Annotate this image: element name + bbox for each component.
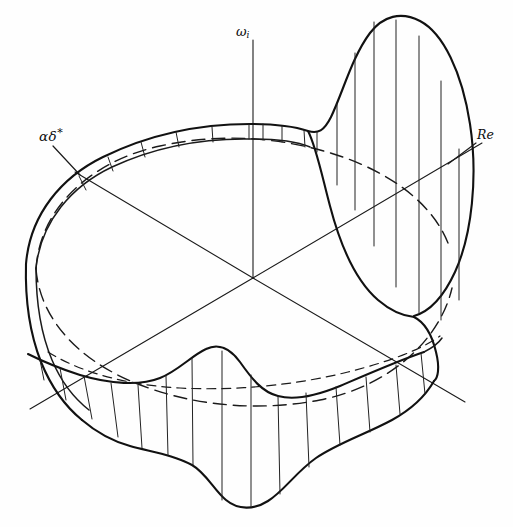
hatch-line-lower [278, 396, 280, 494]
omega-glyph: ω [236, 24, 247, 39]
hatch-line-lower [366, 377, 370, 432]
leader-line-alpha-delta-star [53, 146, 80, 175]
axis-label-alpha-delta-star: αδ* [39, 126, 63, 144]
upper-lobe-descending-edge [308, 131, 414, 317]
upper-surface-boundary [26, 16, 474, 316]
axis-line-re-negative [30, 278, 253, 409]
hatch-line-lower [84, 376, 92, 419]
alpha-delta-superscript: * [57, 126, 63, 139]
upper-band-inner-edge [36, 139, 310, 268]
left-rim-group [26, 264, 89, 420]
left-rim-inner [36, 268, 89, 410]
upper-surface-group [26, 16, 474, 317]
base-ellipse-lower-arc [36, 269, 452, 406]
figure-container: ωi Re αδ* [0, 0, 513, 527]
hatch-line-lower [306, 393, 309, 467]
leader-line-group [53, 143, 476, 175]
lower-surface-bottom-outline [82, 381, 434, 508]
hatch-line-lower [192, 358, 193, 465]
axis-line-re [253, 143, 482, 278]
hatch-line-lower [138, 385, 142, 448]
axis-line-alpha-delta-star [75, 172, 253, 278]
lower-surface-group [28, 317, 442, 508]
upper-hatching-group [79, 20, 459, 320]
omega-subscript: i [247, 30, 250, 40]
surface-diagram [0, 0, 513, 527]
left-rim-outer [26, 264, 82, 420]
hatch-line-lower [111, 383, 118, 437]
alpha-delta-glyph: αδ [39, 128, 57, 144]
leader-line-re [448, 143, 476, 164]
hatch-line-lower [421, 353, 425, 394]
hatch-line-lower [396, 365, 400, 414]
axis-group [30, 40, 482, 409]
base-ellipse-upper-arc [36, 138, 448, 269]
axis-label-re: Re [477, 127, 494, 142]
axis-label-omega-i: ωi [236, 24, 250, 40]
hatch-line-lower [166, 376, 168, 455]
lower-surface-top-edge [28, 347, 424, 398]
